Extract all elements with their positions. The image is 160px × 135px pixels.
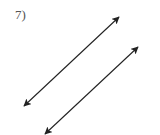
line-1-double-arrow [24,17,119,106]
parallel-lines-diagram [0,0,160,135]
line-2-double-arrow [45,47,138,134]
